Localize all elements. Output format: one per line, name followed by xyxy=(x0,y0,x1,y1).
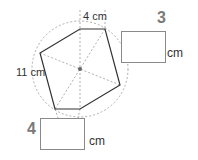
answer-box-4[interactable] xyxy=(40,118,85,150)
unit-label-3: cm xyxy=(167,46,183,60)
answer-box-3[interactable] xyxy=(121,31,166,63)
left-side-label: 11 cm xyxy=(16,66,45,78)
unit-label-4: cm xyxy=(89,134,105,148)
question-number-3: 3 xyxy=(157,9,166,27)
question-number-4: 4 xyxy=(27,120,36,138)
top-side-label: 4 cm xyxy=(83,10,107,22)
